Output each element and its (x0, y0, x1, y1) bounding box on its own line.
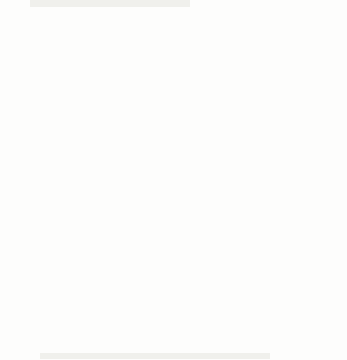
scan-smudge-bottom (40, 353, 270, 359)
vector-field-canvas (18, 18, 330, 340)
figure-page (0, 0, 347, 360)
scan-smudge-top (30, 0, 190, 7)
direction-field-plot (18, 18, 330, 340)
